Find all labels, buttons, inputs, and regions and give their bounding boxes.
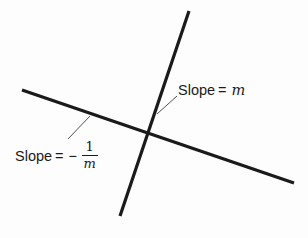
label-slope-m-prefix: Slope — [178, 83, 215, 98]
label-slope-negative-equals: = — [52, 149, 67, 164]
label-slope-m-equals: = — [215, 83, 230, 98]
label-slope-negative-reciprocal: Slope = − 1 m — [15, 141, 98, 172]
label-slope-negative-prefix: Slope — [15, 149, 52, 164]
fraction-one-over-m: 1 m — [82, 140, 98, 171]
fraction-numerator: 1 — [84, 140, 96, 154]
fraction-denominator: m — [82, 157, 98, 171]
label-slope-m: Slope = m — [178, 83, 245, 98]
label-slope-negative-minus: − — [68, 149, 80, 164]
line-diagram-svg — [0, 0, 308, 238]
steep-line — [120, 11, 189, 216]
figure-canvas: Slope = m Slope = − 1 m — [0, 0, 308, 238]
leader-line-slope-negative-reciprocal — [68, 116, 90, 139]
label-slope-m-variable: m — [231, 83, 246, 98]
